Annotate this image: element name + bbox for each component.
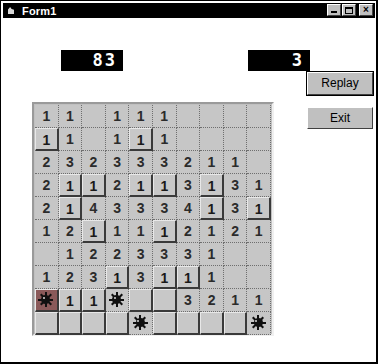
cell-r3-c2[interactable]: 3: [59, 151, 83, 174]
cell-r6-c6[interactable]: 1: [153, 220, 177, 243]
cell-r6-c7[interactable]: 2: [177, 220, 201, 243]
cell-r6-c4[interactable]: 1: [106, 220, 130, 243]
cell-r7-c6[interactable]: 3: [153, 243, 177, 266]
cell-r7-c5[interactable]: 3: [129, 243, 153, 266]
cell-r4-c10[interactable]: 1: [247, 174, 271, 197]
replay-button[interactable]: Replay: [307, 72, 373, 95]
cell-r10-c4[interactable]: [106, 312, 130, 335]
cell-r3-c1[interactable]: 2: [35, 151, 59, 174]
cell-r2-c4[interactable]: 1: [106, 128, 130, 151]
cell-r4-c3[interactable]: 1: [82, 174, 106, 197]
close-button[interactable]: ×: [359, 4, 373, 16]
cell-r2-c10[interactable]: [247, 128, 271, 151]
cell-r7-c7[interactable]: 3: [177, 243, 201, 266]
exit-button[interactable]: Exit: [307, 107, 373, 129]
cell-r3-c5[interactable]: 3: [129, 151, 153, 174]
cell-r5-c9[interactable]: 3: [224, 197, 248, 220]
cell-r9-c6[interactable]: [153, 289, 177, 312]
cell-r4-c4[interactable]: 2: [106, 174, 130, 197]
cell-r1-c5[interactable]: 1: [129, 105, 153, 128]
cell-r4-c5[interactable]: 1: [129, 174, 153, 197]
cell-r2-c5[interactable]: 1: [129, 128, 153, 151]
cell-r1-c9[interactable]: [224, 105, 248, 128]
cell-r10-c7[interactable]: [177, 312, 201, 335]
cell-r4-c1[interactable]: 2: [35, 174, 59, 197]
cell-r10-c9[interactable]: [224, 312, 248, 335]
cell-r8-c3[interactable]: 3: [82, 266, 106, 289]
cell-r4-c7[interactable]: 3: [177, 174, 201, 197]
cell-r8-c1[interactable]: 1: [35, 266, 59, 289]
cell-r5-c4[interactable]: 3: [106, 197, 130, 220]
cell-r7-c9[interactable]: [224, 243, 248, 266]
cell-r1-c2[interactable]: 1: [59, 105, 83, 128]
cell-r1-c1[interactable]: 1: [35, 105, 59, 128]
cell-r6-c1[interactable]: 1: [35, 220, 59, 243]
cell-r9-c2[interactable]: 1: [59, 289, 83, 312]
cell-r8-c10[interactable]: [247, 266, 271, 289]
cell-r9-c3[interactable]: 1: [82, 289, 106, 312]
cell-r3-c6[interactable]: 3: [153, 151, 177, 174]
cell-r1-c3[interactable]: [82, 105, 106, 128]
cell-r9-c1[interactable]: [35, 289, 59, 312]
cell-r1-c8[interactable]: [200, 105, 224, 128]
cell-r7-c4[interactable]: 2: [106, 243, 130, 266]
cell-r9-c4[interactable]: [106, 289, 130, 312]
cell-r6-c8[interactable]: 1: [200, 220, 224, 243]
cell-r7-c1[interactable]: [35, 243, 59, 266]
cell-r8-c5[interactable]: 3: [129, 266, 153, 289]
cell-r7-c8[interactable]: 1: [200, 243, 224, 266]
cell-r10-c1[interactable]: [35, 312, 59, 335]
cell-r9-c7[interactable]: 3: [177, 289, 201, 312]
cell-r10-c2[interactable]: [59, 312, 83, 335]
cell-r5-c3[interactable]: 4: [82, 197, 106, 220]
cell-r3-c10[interactable]: [247, 151, 271, 174]
cell-r4-c6[interactable]: 1: [153, 174, 177, 197]
cell-r10-c10[interactable]: [247, 312, 271, 335]
cell-r3-c3[interactable]: 2: [82, 151, 106, 174]
minefield-grid[interactable]: 1111111111232333211211211313121433341311…: [32, 102, 274, 336]
cell-r8-c8[interactable]: 1: [200, 266, 224, 289]
cell-r6-c3[interactable]: 1: [82, 220, 106, 243]
title-bar[interactable]: Form1 ×: [3, 3, 375, 18]
cell-r1-c10[interactable]: [247, 105, 271, 128]
cell-r4-c8[interactable]: 1: [200, 174, 224, 197]
cell-r2-c6[interactable]: 1: [153, 128, 177, 151]
cell-r2-c7[interactable]: [177, 128, 201, 151]
cell-r4-c2[interactable]: 1: [59, 174, 83, 197]
cell-r8-c7[interactable]: 1: [177, 266, 201, 289]
cell-r5-c1[interactable]: 2: [35, 197, 59, 220]
cell-r6-c5[interactable]: 1: [129, 220, 153, 243]
maximize-button[interactable]: [342, 4, 356, 16]
cell-r5-c10[interactable]: 1: [247, 197, 271, 220]
cell-r9-c5[interactable]: [129, 289, 153, 312]
cell-r6-c2[interactable]: 2: [59, 220, 83, 243]
cell-r9-c10[interactable]: 1: [247, 289, 271, 312]
cell-r7-c10[interactable]: [247, 243, 271, 266]
cell-r3-c9[interactable]: 1: [224, 151, 248, 174]
cell-r8-c4[interactable]: 1: [106, 266, 130, 289]
cell-r8-c2[interactable]: 2: [59, 266, 83, 289]
cell-r5-c8[interactable]: 1: [200, 197, 224, 220]
cell-r5-c6[interactable]: 3: [153, 197, 177, 220]
cell-r3-c4[interactable]: 3: [106, 151, 130, 174]
cell-r4-c9[interactable]: 3: [224, 174, 248, 197]
cell-r10-c5[interactable]: [129, 312, 153, 335]
cell-r10-c8[interactable]: [200, 312, 224, 335]
cell-r10-c3[interactable]: [82, 312, 106, 335]
cell-r3-c8[interactable]: 1: [200, 151, 224, 174]
cell-r1-c6[interactable]: 1: [153, 105, 177, 128]
cell-r8-c6[interactable]: 1: [153, 266, 177, 289]
cell-r9-c9[interactable]: 1: [224, 289, 248, 312]
cell-r2-c8[interactable]: [200, 128, 224, 151]
cell-r2-c1[interactable]: 1: [35, 128, 59, 151]
cell-r2-c9[interactable]: [224, 128, 248, 151]
cell-r6-c9[interactable]: 2: [224, 220, 248, 243]
cell-r8-c9[interactable]: [224, 266, 248, 289]
cell-r5-c2[interactable]: 1: [59, 197, 83, 220]
cell-r9-c8[interactable]: 2: [200, 289, 224, 312]
cell-r10-c6[interactable]: [153, 312, 177, 335]
cell-r2-c2[interactable]: 1: [59, 128, 83, 151]
cell-r7-c3[interactable]: 2: [82, 243, 106, 266]
cell-r7-c2[interactable]: 1: [59, 243, 83, 266]
cell-r5-c7[interactable]: 4: [177, 197, 201, 220]
